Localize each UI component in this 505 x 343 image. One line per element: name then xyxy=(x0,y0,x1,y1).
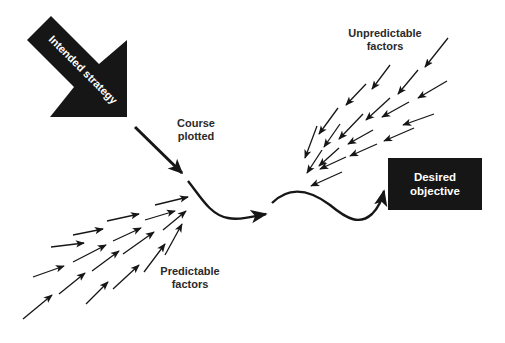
predictable-factor-arrows xyxy=(23,197,188,319)
predictable-factors-label: Predictable factors xyxy=(145,265,235,291)
objective-label-line-1: Desired xyxy=(410,170,460,184)
course-label-line-2: plotted xyxy=(166,130,226,143)
predictable-label-line-2: factors xyxy=(145,278,235,291)
unpredictable-label-line-1: Unpredictable xyxy=(335,27,435,40)
emergent-path xyxy=(188,181,384,220)
course-label-line-1: Course xyxy=(166,117,226,130)
unpredictable-label-line-2: factors xyxy=(335,40,435,53)
objective-label-line-2: objective xyxy=(410,184,460,198)
unpredictable-factors-label: Unpredictable factors xyxy=(335,27,435,53)
course-plotted-label: Course plotted xyxy=(166,117,226,143)
desired-objective-box: Desired objective xyxy=(388,158,482,210)
predictable-label-line-1: Predictable xyxy=(145,265,235,278)
